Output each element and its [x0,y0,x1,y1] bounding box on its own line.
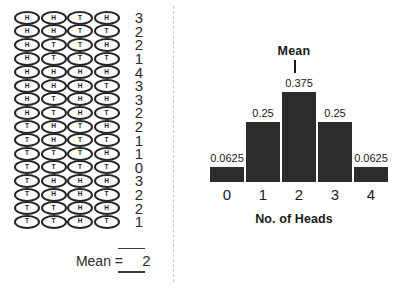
mean-underline [118,271,145,273]
coin-tails: T [41,160,67,174]
coin-tails: T [94,160,120,174]
coin-tails: T [14,160,40,174]
x-tick-label: 0 [209,186,245,203]
bar-column: 0.0625 [209,167,245,182]
coin-heads: H [14,79,40,93]
bar-column: 0.25 [245,122,281,182]
coin-tails: T [14,215,40,229]
histogram-bar [353,167,389,182]
bar-value-label: 0.25 [305,107,365,119]
coin-heads: H [41,133,67,147]
bar-column: 0.0625 [353,167,389,182]
coin-tails: T [14,133,40,147]
coin-heads: H [41,65,67,79]
x-tick-label: 4 [353,186,389,203]
coin-heads: H [94,92,120,106]
bar-value-label: 0.375 [269,77,329,89]
coin-heads: H [67,79,93,93]
coin-heads: H [41,11,67,25]
coin-tails: T [41,215,67,229]
bar-value-label: 0.0625 [341,152,401,164]
coin-tails: T [67,24,93,38]
coin-heads: H [41,120,67,134]
coin-heads: H [41,24,67,38]
coin-heads: H [67,188,93,202]
coin-tails: T [14,174,40,188]
histogram-bar [281,92,317,182]
panel-divider [173,6,174,282]
coin-heads: H [14,38,40,52]
coin-heads: H [67,106,93,120]
coin-heads: H [14,92,40,106]
coin-tails: T [14,188,40,202]
coin-tails: T [67,160,93,174]
mean-summary: Mean = 2 [14,252,160,269]
coin-tails: T [67,38,93,52]
coin-heads: H [94,11,120,25]
coin-heads: H [67,65,93,79]
coin-tails: T [14,201,40,215]
coin-heads: H [67,215,93,229]
mean-fraction-top-rule [118,248,145,250]
coin-tails: T [41,38,67,52]
histogram-bar [209,167,245,182]
coin-tails: T [67,120,93,134]
coin-heads: H [14,106,40,120]
coin-tails: T [94,79,120,93]
mean-label: Mean = [76,253,123,269]
coin-tails: T [41,201,67,215]
trials-table: HHTH3HHTT2HTTH2HTTT1HHHH4HHHT3HTHH3HTHT2… [14,11,150,229]
histogram-plot: 0.062500.2510.37520.2530.06254 [185,0,403,288]
coin-tails: T [41,52,67,66]
coin-tails: T [94,24,120,38]
coin-heads: H [14,11,40,25]
coin-flip-trials-panel: HHTH3HHTT2HTTH2HTTT1HHHH4HHHT3HTHH3HTHT2… [0,0,165,288]
x-axis-title: No. of Heads [185,212,403,226]
coin-tails: T [94,133,120,147]
trial-heads-count: 1 [128,213,150,230]
coin-tails: T [67,133,93,147]
coin-tails: T [41,147,67,161]
coin-tails: T [94,188,120,202]
coin-tails: T [41,106,67,120]
coin-heads: H [41,174,67,188]
trial-row: TTHT1 [14,215,150,229]
coin-heads: H [14,52,40,66]
coin-tails: T [94,215,120,229]
coin-heads: H [94,38,120,52]
coin-heads: H [94,147,120,161]
bar-column: 0.375 [281,92,317,182]
coin-heads: H [67,92,93,106]
mean-value: 2 [133,252,160,269]
coin-heads: H [67,201,93,215]
coin-heads: H [94,65,120,79]
coin-tails: T [67,52,93,66]
coin-tails: T [94,106,120,120]
coin-tails: T [14,147,40,161]
coin-heads: H [67,174,93,188]
coin-heads: H [41,79,67,93]
coin-tails: T [67,147,93,161]
coin-tails: T [67,11,93,25]
coin-tails: T [94,52,120,66]
coin-heads: H [94,201,120,215]
x-tick-label: 1 [245,186,281,203]
coin-heads: H [94,174,120,188]
x-tick-label: 3 [317,186,353,203]
coin-heads: H [94,120,120,134]
coin-heads: H [14,24,40,38]
probability-histogram-panel: Mean 0.062500.2510.37520.2530.06254 No. … [185,0,403,288]
x-tick-label: 2 [281,186,317,203]
coin-heads: H [14,65,40,79]
histogram-bar [245,122,281,182]
coin-tails: T [14,120,40,134]
coin-tails: T [41,92,67,106]
coin-heads: H [41,188,67,202]
